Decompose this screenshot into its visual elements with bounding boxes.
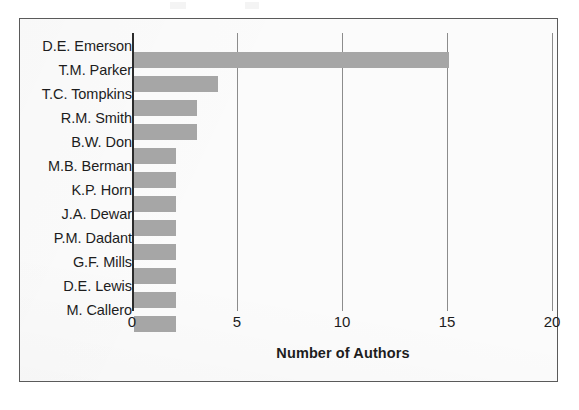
bar (134, 220, 176, 236)
category-label: J.A. Dewar (20, 202, 132, 226)
gridline-20 (552, 33, 553, 311)
value-axis-tick-labels: 05101520 (132, 313, 572, 339)
bars-group (134, 33, 552, 311)
bar (134, 244, 176, 260)
category-label: D.E. Emerson (20, 34, 132, 58)
bar (134, 148, 176, 164)
category-label: G.F. Mills (20, 250, 132, 274)
tick-label-5: 5 (217, 313, 257, 330)
chart-figure-frame: D.E. EmersonT.M. ParkerT.C. TompkinsR.M.… (19, 18, 558, 382)
tick-label-20: 20 (532, 313, 572, 330)
bar (134, 292, 176, 308)
category-axis: D.E. EmersonT.M. ParkerT.C. TompkinsR.M.… (20, 34, 132, 306)
bar (134, 196, 176, 212)
plot-area (132, 33, 552, 311)
bar (134, 100, 197, 116)
tick-label-0: 0 (112, 313, 152, 330)
bar (134, 52, 449, 68)
category-label: T.M. Parker (20, 58, 132, 82)
scan-artifact-speck (245, 2, 259, 9)
tick-label-10: 10 (322, 313, 362, 330)
bar (134, 76, 218, 92)
bar (134, 172, 176, 188)
category-label: K.P. Horn (20, 178, 132, 202)
category-label: B.W. Don (20, 130, 132, 154)
category-label: D.E. Lewis (20, 274, 132, 298)
category-label: R.M. Smith (20, 106, 132, 130)
category-label: M.B. Berman (20, 154, 132, 178)
category-label: P.M. Dadant (20, 226, 132, 250)
bar (134, 124, 197, 140)
bar (134, 268, 176, 284)
category-label: T.C. Tompkins (20, 82, 132, 106)
scan-artifact-speck (170, 2, 186, 9)
tick-label-15: 15 (427, 313, 467, 330)
value-axis-title: Number of Authors (132, 345, 554, 361)
